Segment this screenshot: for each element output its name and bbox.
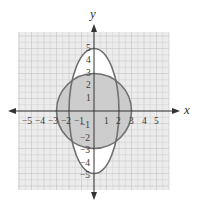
y-tick: 3 <box>86 68 91 78</box>
x-axis-arrow-left-icon <box>8 108 16 114</box>
y-tick: −2 <box>80 133 90 143</box>
y-axis-arrow-up-icon <box>91 24 97 32</box>
x-axis-arrow-right-icon <box>172 108 180 114</box>
x-tick: −2 <box>61 116 71 126</box>
y-tick: −5 <box>80 170 90 180</box>
x-tick: −3 <box>48 116 58 126</box>
y-tick: 4 <box>86 55 91 65</box>
y-tick: 1 <box>86 93 91 103</box>
y-tick: 2 <box>86 80 91 90</box>
y-tick: 5 <box>86 43 91 53</box>
y-axis-arrow-down-icon <box>91 192 97 200</box>
y-tick: −3 <box>80 145 90 155</box>
y-tick: −1 <box>80 120 90 130</box>
x-tick: 4 <box>142 116 147 126</box>
x-tick: 2 <box>116 116 121 126</box>
conic-graph: x y −5 −4 −3 −2 −1 1 2 3 4 5 5 4 3 2 1 −… <box>0 0 199 206</box>
x-tick: 1 <box>104 116 109 126</box>
x-tick: −5 <box>22 116 32 126</box>
x-tick: 5 <box>154 116 159 126</box>
x-tick: −4 <box>35 116 45 126</box>
x-axis-label: x <box>183 102 190 117</box>
y-axis-label: y <box>88 6 96 21</box>
x-tick: 3 <box>129 116 134 126</box>
y-tick: −4 <box>80 158 90 168</box>
